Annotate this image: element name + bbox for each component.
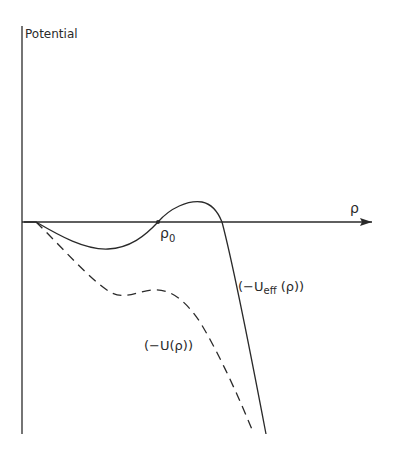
effective-potential-label: (−Ueff (ρ)) bbox=[238, 279, 304, 296]
y-axis-label: Potential bbox=[25, 27, 78, 41]
root-point bbox=[156, 220, 160, 224]
root-label: ρ0 bbox=[160, 225, 175, 244]
x-axis-label: ρ bbox=[350, 200, 359, 216]
effective-potential-curve bbox=[24, 202, 266, 434]
potential-curve bbox=[36, 222, 253, 432]
potential-diagram: Potential ρ ρ0 (−Ueff (ρ)) (−U(ρ)) bbox=[0, 0, 393, 456]
potential-label: (−U(ρ)) bbox=[144, 338, 193, 353]
